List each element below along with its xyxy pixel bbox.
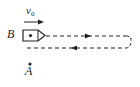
- velocity-arrow-icon: [24, 20, 44, 25]
- right-arrowhead-icon: [85, 34, 91, 39]
- return-path: [27, 46, 126, 51]
- diagram-canvas: v0 B A: [0, 0, 140, 87]
- outgoing-path: [46, 34, 126, 39]
- point-a-dot-icon: [28, 62, 31, 65]
- left-arrowhead-icon: [71, 46, 77, 51]
- object-at-b-icon: [23, 30, 45, 41]
- turnaround-curve: [126, 36, 131, 48]
- diagram-graphics: [0, 0, 140, 87]
